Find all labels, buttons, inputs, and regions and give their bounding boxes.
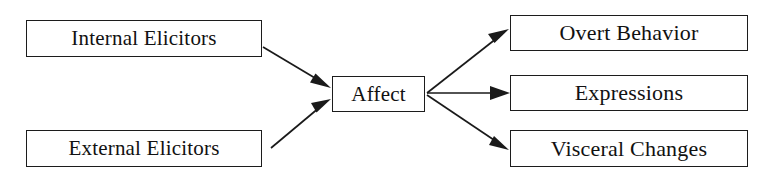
node-expressions-label: Expressions [575,82,684,104]
affect-flow-diagram: Internal Elicitors External Elicitors Af… [0,0,771,176]
node-affect-label: Affect [351,84,405,105]
node-external-elicitors-label: External Elicitors [68,138,219,159]
node-visceral-changes: Visceral Changes [510,130,748,167]
edge-affect-to-expressions [427,86,510,100]
node-external-elicitors: External Elicitors [26,130,262,167]
node-overt-behavior: Overt Behavior [510,15,748,51]
edge-affect-to-visceral-changes [427,95,509,150]
node-expressions: Expressions [510,75,748,111]
node-internal-elicitors: Internal Elicitors [26,20,262,57]
node-overt-behavior-label: Overt Behavior [559,22,698,44]
node-visceral-changes-label: Visceral Changes [551,138,707,160]
edge-affect-to-overt-behavior [427,29,509,93]
node-internal-elicitors-label: Internal Elicitors [71,28,216,49]
edge-external-to-affect [271,99,331,148]
node-affect: Affect [332,76,425,112]
edge-internal-to-affect [263,47,331,88]
